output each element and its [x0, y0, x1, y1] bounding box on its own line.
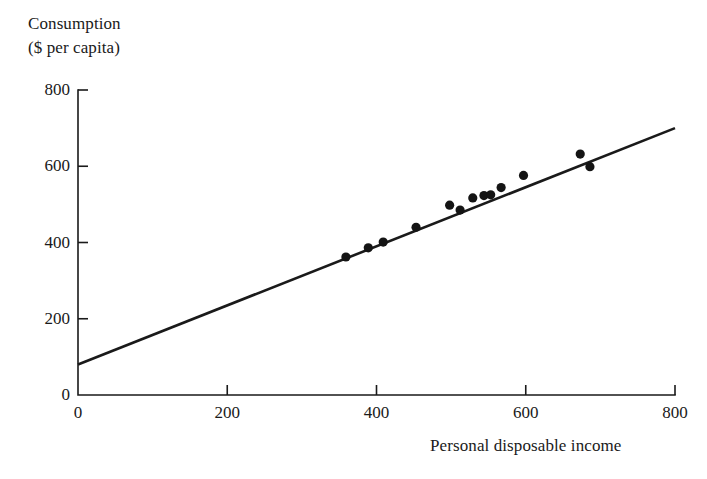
data-point	[411, 223, 420, 232]
data-point	[379, 238, 388, 247]
data-point	[468, 193, 477, 202]
data-point	[455, 205, 464, 214]
plot-canvas	[0, 0, 707, 479]
data-point	[576, 149, 585, 158]
data-point	[486, 190, 495, 199]
regression-line	[78, 128, 675, 364]
axis-spines	[78, 90, 675, 395]
scatter-plot-figure: Consumption ($ per capita) 0 200 400 600…	[0, 0, 707, 479]
data-point	[497, 183, 506, 192]
data-point	[519, 171, 528, 180]
data-point	[585, 162, 594, 171]
data-point	[364, 243, 373, 252]
data-point	[341, 252, 350, 261]
data-point	[445, 201, 454, 210]
